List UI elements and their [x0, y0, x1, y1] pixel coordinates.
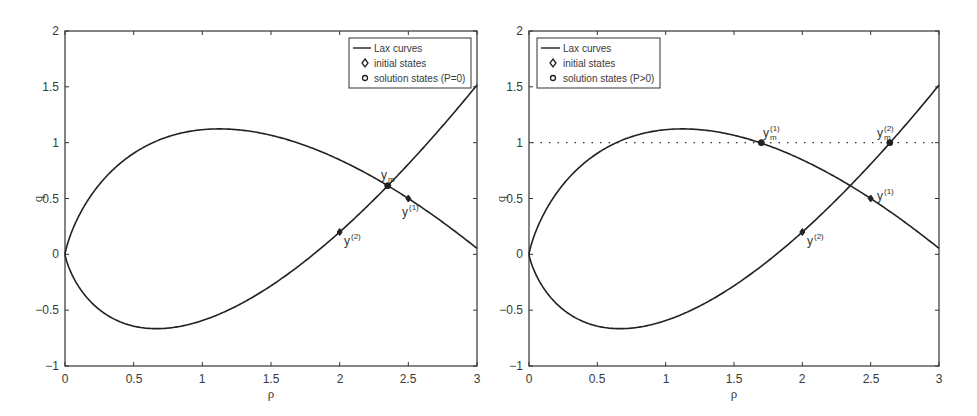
right-y-axis-label: q [493, 195, 508, 202]
x-tick-label: 0.5 [126, 372, 143, 386]
annotation-y2: y (2) [344, 232, 361, 248]
annotation-y1: y (1) [877, 187, 894, 203]
x-tick-label: 2.5 [863, 372, 880, 386]
svg-text:y: y [344, 234, 350, 248]
svg-text:(2): (2) [884, 124, 894, 133]
x-tick-label: 1.5 [726, 372, 743, 386]
x-tick-label: 2 [337, 372, 344, 386]
x-tick-label: 1 [199, 372, 206, 386]
x-tick-label: 3 [936, 372, 943, 386]
svg-text:y: y [402, 205, 408, 219]
figure: 0 0.5 1 1.5 2 2.5 3 2 1.5 1 0.5 0 −0.5 −… [0, 0, 977, 416]
y-tick-label: −0.5 [35, 303, 59, 317]
x-tick-label: 0 [526, 372, 533, 386]
lax-curve-2 [529, 85, 939, 329]
x-tick-label: 0 [62, 372, 69, 386]
x-tick-label: 1.5 [263, 372, 280, 386]
svg-text:m: m [388, 175, 395, 184]
annotation-ym1: y m (1) [763, 124, 780, 142]
right-x-axis-label: ρ [731, 386, 738, 401]
right-state-markers [758, 140, 892, 236]
x-tick-label: 1 [663, 372, 670, 386]
x-tick-label: 3 [474, 372, 481, 386]
svg-text:y: y [381, 168, 387, 182]
svg-text:y: y [877, 126, 883, 140]
y-tick-label: 1 [516, 136, 523, 150]
svg-text:(1): (1) [770, 124, 780, 133]
y-tick-label: 0.5 [506, 192, 523, 206]
left-y-axis-label: q [30, 195, 45, 202]
y-tick-label: 1.5 [42, 80, 59, 94]
legend-label-solution: solution states (P>0) [563, 73, 654, 84]
lax-curve-1 [65, 129, 477, 254]
svg-text:m: m [884, 133, 891, 142]
x-tick-label: 2.5 [400, 372, 417, 386]
y-tick-label: 2 [516, 24, 523, 38]
y-tick-label: −1 [45, 359, 59, 373]
y-tick-label: 1 [52, 136, 59, 150]
left-x-axis-label: ρ [268, 386, 275, 401]
y-tick-label: −0.5 [499, 303, 523, 317]
annotation-ym2: y m (2) [877, 124, 894, 142]
left-x-tick-labels: 0 0.5 1 1.5 2 2.5 3 [62, 372, 481, 386]
svg-text:y: y [763, 126, 769, 140]
y-tick-label: 2 [52, 24, 59, 38]
svg-text:y: y [877, 189, 883, 203]
y-tick-label: 1.5 [506, 80, 523, 94]
figure-canvas: 0 0.5 1 1.5 2 2.5 3 2 1.5 1 0.5 0 −0.5 −… [0, 0, 977, 416]
svg-text:(1): (1) [884, 187, 894, 196]
annotation-y2: y (2) [807, 232, 824, 248]
left-legend: Lax curves initial states solution state… [349, 38, 471, 88]
left-state-markers [337, 183, 411, 236]
initial-state-diamond-icon [406, 195, 411, 202]
legend-label-initial: initial states [563, 58, 615, 69]
annotation-ym: y m [381, 168, 395, 184]
svg-text:(1): (1) [409, 203, 419, 212]
annotation-y1: y (1) [402, 203, 419, 219]
solution-state-circle-icon [758, 140, 764, 146]
y-tick-label: 0 [52, 247, 59, 261]
x-tick-label: 2 [799, 372, 806, 386]
initial-state-diamond-icon [868, 195, 873, 202]
legend-label-initial: initial states [374, 58, 426, 69]
y-tick-label: −1 [509, 359, 523, 373]
svg-text:(2): (2) [351, 232, 361, 241]
svg-text:y: y [807, 234, 813, 248]
svg-text:(2): (2) [814, 232, 824, 241]
x-tick-label: 0.5 [589, 372, 606, 386]
left-plot: 0 0.5 1 1.5 2 2.5 3 2 1.5 1 0.5 0 −0.5 −… [30, 24, 481, 401]
right-plot: 0 0.5 1 1.5 2 2.5 3 2 1.5 1 0.5 0 −0.5 −… [493, 24, 943, 401]
legend-label-lax: Lax curves [374, 43, 422, 54]
right-legend: Lax curves initial states solution state… [537, 38, 660, 88]
right-x-tick-labels: 0 0.5 1 1.5 2 2.5 3 [526, 372, 943, 386]
y-tick-label: 0 [516, 247, 523, 261]
svg-text:m: m [770, 133, 777, 142]
legend-label-lax: Lax curves [563, 43, 611, 54]
legend-label-solution: solution states (P=0) [374, 73, 465, 84]
